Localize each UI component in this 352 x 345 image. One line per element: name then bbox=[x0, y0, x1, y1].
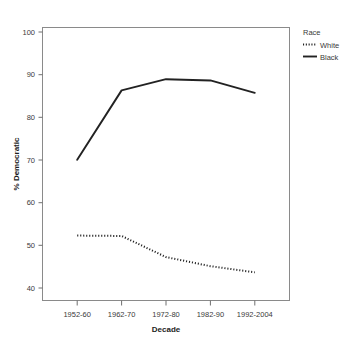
legend-label-black: Black bbox=[320, 53, 339, 62]
line-chart: 100 90 80 70 60 50 40 1952-60 1962-70 19… bbox=[0, 0, 352, 345]
y-tick-label-50: 50 bbox=[27, 241, 35, 250]
y-tick-label-70: 70 bbox=[27, 156, 35, 165]
y-tick-label-80: 80 bbox=[27, 113, 35, 122]
y-tick-label-90: 90 bbox=[27, 70, 35, 79]
x-tick-label-0: 1952-60 bbox=[63, 310, 91, 319]
x-tick-label-1: 1962-70 bbox=[108, 310, 136, 319]
legend-title: Race bbox=[303, 28, 321, 37]
y-tick-label-100: 100 bbox=[22, 28, 35, 37]
x-tick-label-2: 1972-80 bbox=[152, 310, 180, 319]
legend-label-white: White bbox=[320, 41, 339, 50]
x-axis-title: Decade bbox=[152, 325, 181, 334]
chart-background bbox=[0, 0, 352, 345]
x-tick-label-4: 1992-2004 bbox=[237, 310, 273, 319]
x-tick-label-3: 1982-90 bbox=[197, 310, 225, 319]
y-tick-label-60: 60 bbox=[27, 198, 35, 207]
y-axis-title: % Democratic bbox=[12, 137, 21, 190]
y-tick-label-40: 40 bbox=[27, 284, 35, 293]
chart-container: 100 90 80 70 60 50 40 1952-60 1962-70 19… bbox=[0, 0, 352, 345]
